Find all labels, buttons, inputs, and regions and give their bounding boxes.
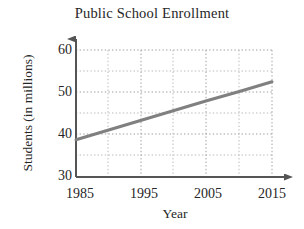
data-series-line (76, 82, 272, 140)
gridlines-minor-horizontal (76, 71, 272, 155)
chart-figure: Public School Enrollment Students (in mi… (0, 0, 304, 229)
plot-area (0, 0, 304, 229)
